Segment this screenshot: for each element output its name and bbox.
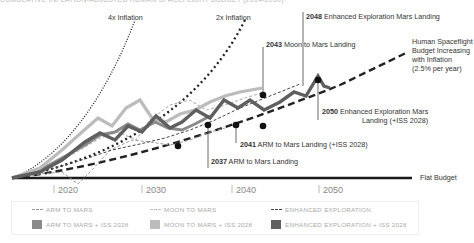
dashed-line-icon <box>150 209 161 210</box>
tick-2030: 2030 <box>146 185 166 195</box>
legend-enhanced-exploration-iss[interactable]: ENHANCED EXPLORATION + ISS 2028 <box>271 220 407 229</box>
label-inflation-budget-3: with Inflation <box>411 55 452 64</box>
annotation-2041: 2041 ARM to Mars Landing (+ISS 2028) <box>240 140 368 149</box>
legend-moon-to-mars[interactable]: MOON TO MARS <box>150 206 217 213</box>
legend-arm-to-mars[interactable]: ARM TO MARS <box>32 206 93 213</box>
legend-label: MOON TO MARS <box>164 206 217 213</box>
legend-moon-to-mars-iss[interactable]: MOON TO MARS + ISS 2028 <box>150 220 252 229</box>
swatch-icon <box>271 220 281 229</box>
annotation-2050-line1: 2050 Enhanced Exploration Mars <box>322 107 429 116</box>
marker-2041b <box>260 123 267 130</box>
annotation-2037: 2037 ARM to Mars Landing <box>211 157 298 166</box>
inflation-2x-line <box>12 20 245 178</box>
chart-legend: ARM TO MARS MOON TO MARS ENHANCED EXPLOR… <box>11 201 419 235</box>
label-inflation-budget-2: Budget Increasing <box>412 46 470 55</box>
marker-2050 <box>315 77 322 120</box>
dashed-line-icon <box>32 209 43 210</box>
legend-enhanced-exploration[interactable]: ENHANCED EXPLORATION <box>271 206 371 213</box>
legend-label: ARM TO MARS <box>46 206 93 213</box>
marker-2043 <box>260 47 267 98</box>
legend-label: ARM TO MARS + ISS 2028 <box>46 221 129 228</box>
inflation-4x-line <box>12 20 135 178</box>
swatch-icon <box>32 220 42 229</box>
annotation-2048: 2048 Enhanced Exploration Mars Landing <box>306 12 440 21</box>
tick-2020: 2020 <box>58 185 78 195</box>
tick-2040: 2040 <box>236 185 256 195</box>
swatch-icon <box>150 220 160 229</box>
label-flat-budget: Flat Budget <box>420 173 457 182</box>
x-axis: 2020 2030 2040 2050 <box>54 185 343 195</box>
annotation-2043: 2043 Moon to Mars Landing <box>266 40 356 49</box>
label-2x-inflation: 2x Inflation <box>216 13 251 22</box>
marker-arm-low <box>175 143 182 150</box>
label-inflation-budget-4: (2.5% per year) <box>412 64 462 73</box>
marker-2041 <box>233 122 240 143</box>
legend-arm-to-mars-iss[interactable]: ARM TO MARS + ISS 2028 <box>32 220 129 229</box>
legend-label: MOON TO MARS + ISS 2028 <box>164 221 252 228</box>
label-inflation-budget-1: Human Spaceflight <box>412 37 473 46</box>
legend-label: ENHANCED EXPLORATION <box>285 206 371 213</box>
tick-2050: 2050 <box>323 185 343 195</box>
dashed-line-icon <box>271 209 282 210</box>
label-4x-inflation: 4x Inflation <box>108 13 143 22</box>
legend-label: ENHANCED EXPLORATION + ISS 2028 <box>285 221 407 228</box>
annotation-2050-line2: Landing (+ISS 2028) <box>362 116 428 125</box>
